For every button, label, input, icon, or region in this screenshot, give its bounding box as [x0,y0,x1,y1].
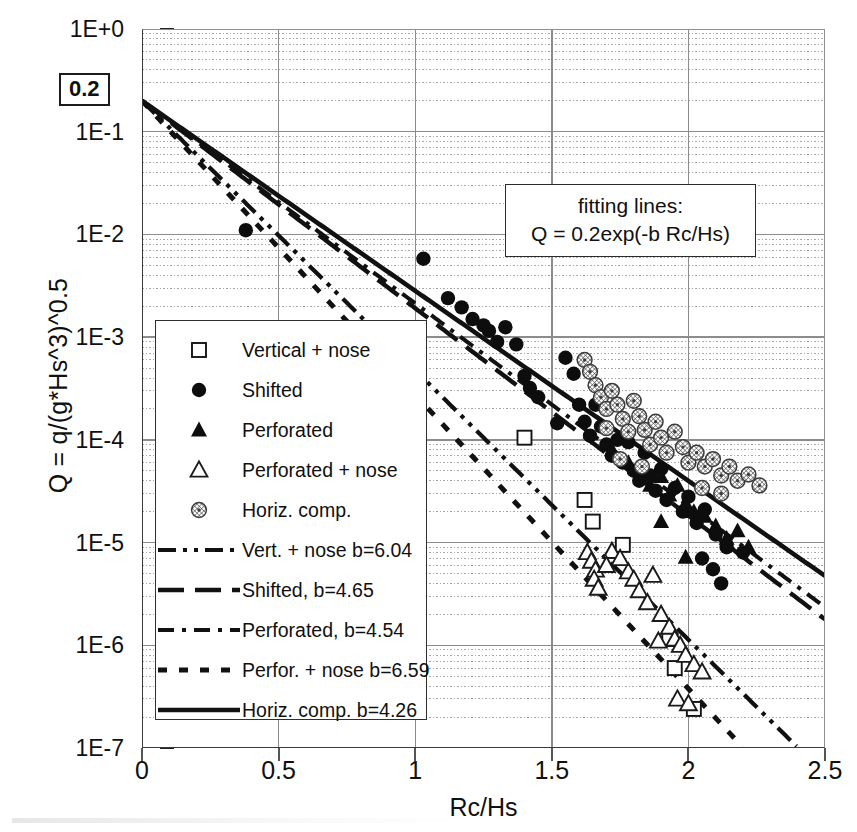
legend-item[interactable]: Vert. + nose b=6.04 [156,530,426,570]
legend-item-label: Perforated, b=4.54 [242,619,404,642]
intercept-callout: 0.2 [59,73,110,106]
fitting-lines-annotation: fitting lines: Q = 0.2exp(-b Rc/Hs) [505,184,756,257]
y-tick-label: 1E+0 [32,16,124,43]
legend-item-label: Horiz. comp. [242,499,351,522]
x-tick-mark [278,748,280,761]
x-tick-mark [141,748,143,761]
annotation-line-2: Q = 0.2exp(-b Rc/Hs) [512,220,749,248]
legend-marker-filled-triangle-icon [156,419,242,441]
y-tick-label: 1E-4 [32,427,124,454]
scan-artifact [12,818,472,823]
legend-item[interactable]: Vertical + nose [156,330,426,370]
x-tick-label: 2.5 [785,756,857,785]
legend-marker-filled-circle-icon [156,379,242,401]
legend-item[interactable]: Perforated, b=4.54 [156,610,426,650]
legend-item-label: Horiz. comp. b=4.26 [242,699,417,722]
chart-legend: Vertical + noseShiftedPerforatedPerforat… [155,320,427,720]
legend-item-label: Perforated [242,419,333,442]
x-tick-mark [824,748,826,761]
legend-item[interactable]: Shifted [156,370,426,410]
x-tick-mark [414,748,416,761]
legend-item-label: Shifted [242,379,303,402]
y-tick-label: 1E-1 [32,119,124,146]
legend-item-label: Vert. + nose b=6.04 [242,539,412,562]
legend-item-label: Vertical + nose [242,339,370,362]
y-tick-label: 1E-2 [32,221,124,248]
y-tick-label: 1E-6 [32,632,124,659]
legend-line-sample-icon [156,662,242,678]
y-tick-label: 1E-3 [32,324,124,351]
legend-line-sample-icon [156,622,242,638]
x-tick-mark [551,748,553,761]
legend-item-label: Shifted, b=4.65 [242,579,374,602]
legend-marker-open-triangle-icon [156,459,242,481]
legend-item-label: Perforated + nose [242,459,398,482]
annotation-line-1: fitting lines: [512,192,749,220]
legend-item-label: Perfor. + nose b=6.59 [242,659,430,682]
legend-line-sample-icon [156,702,242,718]
legend-line-sample-icon [156,542,242,558]
legend-marker-hatched-circle-icon [156,499,242,521]
y-axis-label: Q = q/(g*Hs^3)^0.5 [44,106,73,666]
legend-item[interactable]: Horiz. comp. b=4.26 [156,690,426,730]
y-tick-label: 1E-5 [32,530,124,557]
legend-item[interactable]: Shifted, b=4.65 [156,570,426,610]
legend-item[interactable]: Perforated + nose [156,450,426,490]
legend-item[interactable]: Perfor. + nose b=6.59 [156,650,426,690]
chart-figure: Q = q/(g*Hs^3)^0.5 1E+01E-11E-21E-31E-41… [0,0,857,832]
legend-marker-open-square-icon [156,339,242,361]
legend-item[interactable]: Horiz. comp. [156,490,426,530]
x-tick-mark [687,748,689,761]
legend-item[interactable]: Perforated [156,410,426,450]
legend-line-sample-icon [156,582,242,598]
